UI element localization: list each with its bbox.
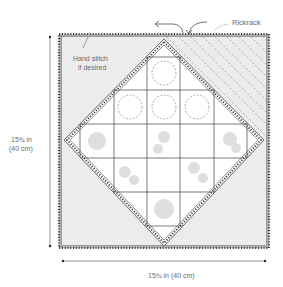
hand-stitch-label-line2: if desired	[78, 64, 106, 72]
rickrack-arrows	[155, 21, 228, 34]
hand-stitch-label-line1: Hand stitch	[73, 55, 108, 63]
height-label-line2: (40 cm)	[9, 145, 33, 153]
height-label-line1: 15¾ in	[11, 136, 32, 144]
width-dimension	[62, 260, 266, 262]
rickrack-label: Rickrack	[232, 19, 261, 27]
width-label: 15¾ in (40 cm)	[148, 272, 195, 280]
quilt-diagram	[0, 0, 283, 287]
height-dimension	[49, 36, 51, 247]
